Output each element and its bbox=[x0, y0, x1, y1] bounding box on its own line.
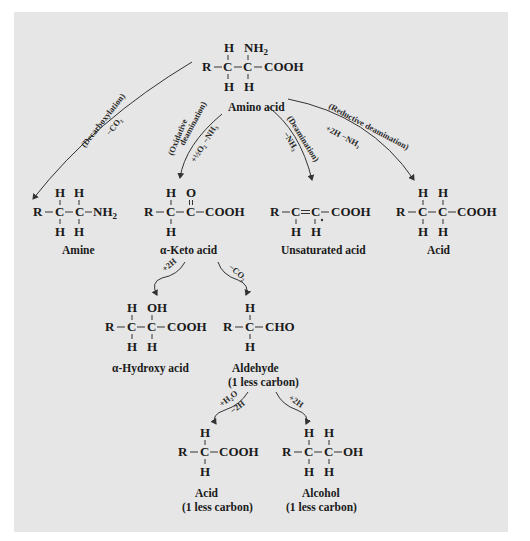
svg-text:H: H bbox=[166, 185, 176, 200]
svg-text:R: R bbox=[396, 204, 406, 219]
svg-text:C: C bbox=[324, 444, 333, 459]
svg-text:H: H bbox=[438, 185, 448, 200]
svg-text:H: H bbox=[438, 224, 448, 239]
alcohol-sublabel: (1 less carbon) bbox=[286, 501, 357, 514]
svg-text:H: H bbox=[291, 224, 301, 239]
svg-text:H: H bbox=[166, 224, 176, 239]
svg-text:H: H bbox=[127, 339, 137, 354]
keto-acid-structure: H O R C C COOH H bbox=[144, 185, 245, 239]
svg-text:H: H bbox=[127, 300, 137, 315]
svg-text:C: C bbox=[311, 204, 320, 219]
svg-text:R: R bbox=[270, 204, 280, 219]
svg-text:H: H bbox=[74, 185, 84, 200]
svg-text:H: H bbox=[324, 464, 334, 479]
amine-structure: H H R C C NH2 H H bbox=[33, 185, 118, 239]
svg-text:OH: OH bbox=[147, 300, 167, 315]
keto-acid-label: α-Keto acid bbox=[160, 244, 218, 256]
svg-text:C: C bbox=[243, 59, 252, 74]
svg-text:H: H bbox=[224, 79, 234, 94]
svg-text:H: H bbox=[245, 300, 255, 315]
svg-text:H: H bbox=[418, 224, 428, 239]
svg-text:H: H bbox=[304, 425, 314, 440]
svg-text:H: H bbox=[304, 464, 314, 479]
svg-text:R: R bbox=[282, 444, 292, 459]
svg-text:C: C bbox=[147, 319, 156, 334]
svg-text:NH2: NH2 bbox=[244, 40, 269, 57]
svg-text:C: C bbox=[55, 204, 64, 219]
svg-text:H: H bbox=[55, 185, 65, 200]
alcohol-label: Alcohol bbox=[302, 487, 340, 499]
svg-text:H: H bbox=[74, 224, 84, 239]
acid-less-carbon-label: Acid bbox=[195, 487, 219, 499]
hydroxy-acid-structure: H OH R C C COOH H H bbox=[105, 300, 207, 354]
svg-text:R: R bbox=[105, 319, 115, 334]
svg-text:C: C bbox=[186, 204, 195, 219]
alcohol-structure: H H R C C OH H H bbox=[282, 425, 363, 479]
svg-text:R: R bbox=[144, 204, 154, 219]
svg-text:O: O bbox=[186, 185, 196, 200]
svg-text:C: C bbox=[75, 204, 84, 219]
svg-text:COOH: COOH bbox=[205, 204, 245, 219]
svg-text:C: C bbox=[127, 319, 136, 334]
svg-text:C: C bbox=[200, 444, 209, 459]
acid-less-carbon-sublabel: (1 less carbon) bbox=[182, 501, 253, 514]
svg-text:C: C bbox=[291, 204, 300, 219]
amine-label: Amine bbox=[62, 244, 95, 256]
amino-acid-structure: H NH2 R C C COOH H H bbox=[202, 40, 304, 94]
unsaturated-acid-label: Unsaturated acid bbox=[281, 244, 366, 256]
unsaturated-acid-structure: R C C COOH H H bbox=[270, 204, 371, 239]
amino-acid-label: Amino acid bbox=[228, 101, 285, 113]
svg-text:COOH: COOH bbox=[219, 444, 259, 459]
svg-text:COOH: COOH bbox=[167, 319, 207, 334]
acid-less-carbon-structure: H R C COOH H bbox=[178, 425, 259, 479]
svg-text:C: C bbox=[223, 59, 232, 74]
svg-text:H: H bbox=[244, 79, 254, 94]
svg-text:(Reductive deamination): (Reductive deamination) bbox=[327, 101, 411, 152]
svg-text:H: H bbox=[200, 425, 210, 440]
svg-text:COOH: COOH bbox=[457, 204, 497, 219]
svg-text:C: C bbox=[304, 444, 313, 459]
svg-text:+2H −NH₃: +2H −NH₃ bbox=[324, 123, 363, 150]
aldehyde-label: Aldehyde bbox=[232, 362, 279, 375]
svg-text:H: H bbox=[311, 224, 321, 239]
aldehyde-sublabel: (1 less carbon) bbox=[228, 376, 299, 389]
svg-text:H: H bbox=[245, 339, 255, 354]
svg-text:H: H bbox=[224, 40, 234, 55]
svg-text:COOH: COOH bbox=[331, 204, 371, 219]
svg-text:C: C bbox=[418, 204, 427, 219]
svg-text:R: R bbox=[178, 444, 188, 459]
svg-text:R: R bbox=[202, 59, 212, 74]
acid-structure: H H R C C COOH H H bbox=[396, 185, 497, 239]
svg-text:C: C bbox=[166, 204, 175, 219]
reaction-diagram: H NH2 R C C COOH H H Amino acid (Decarbo… bbox=[0, 0, 530, 541]
svg-text:COOH: COOH bbox=[264, 59, 304, 74]
svg-text:OH: OH bbox=[343, 444, 363, 459]
svg-text:R: R bbox=[223, 319, 233, 334]
svg-text:C: C bbox=[438, 204, 447, 219]
svg-text:NH2: NH2 bbox=[93, 204, 118, 221]
svg-text:+2H: +2H bbox=[160, 256, 179, 274]
aldehyde-structure: H R C CHO H bbox=[223, 300, 295, 354]
svg-text:H: H bbox=[418, 185, 428, 200]
svg-text:C: C bbox=[245, 319, 254, 334]
svg-text:H: H bbox=[55, 224, 65, 239]
acid-label: Acid bbox=[427, 244, 451, 256]
svg-text:H: H bbox=[200, 464, 210, 479]
svg-text:H: H bbox=[147, 339, 157, 354]
svg-text:H: H bbox=[324, 425, 334, 440]
hydroxy-acid-label: α-Hydroxy acid bbox=[112, 362, 189, 375]
svg-text:R: R bbox=[33, 204, 43, 219]
svg-text:CHO: CHO bbox=[265, 319, 295, 334]
